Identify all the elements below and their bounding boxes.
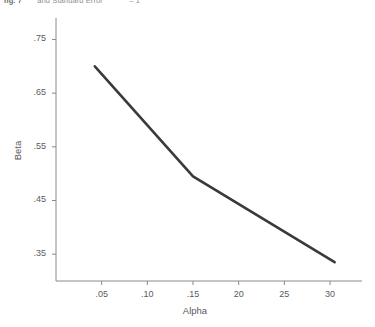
y-axis-ticks <box>52 39 56 254</box>
y-tick-label: .75 <box>20 33 46 43</box>
y-tick-label: .35 <box>20 248 46 258</box>
data-line <box>95 66 335 262</box>
y-tick-label: .45 <box>20 194 46 204</box>
x-tick-label: .10 <box>132 289 162 299</box>
data-series-group <box>95 66 335 262</box>
plot-canvas <box>0 0 375 327</box>
x-tick-label: 20 <box>224 289 254 299</box>
x-axis-title: Alpha <box>150 305 240 316</box>
y-axis-title: Beta <box>12 126 23 176</box>
y-tick-label: .65 <box>20 87 46 97</box>
x-tick-label: 25 <box>269 289 299 299</box>
x-tick-label: .05 <box>87 289 117 299</box>
y-tick-label: .55 <box>20 141 46 151</box>
x-tick-label: .15 <box>178 289 208 299</box>
line-chart: .35.45.55.65.75 .05.10.15202530 Beta Alp… <box>0 0 375 327</box>
x-axis-ticks <box>102 281 330 285</box>
x-tick-label: 30 <box>315 289 345 299</box>
